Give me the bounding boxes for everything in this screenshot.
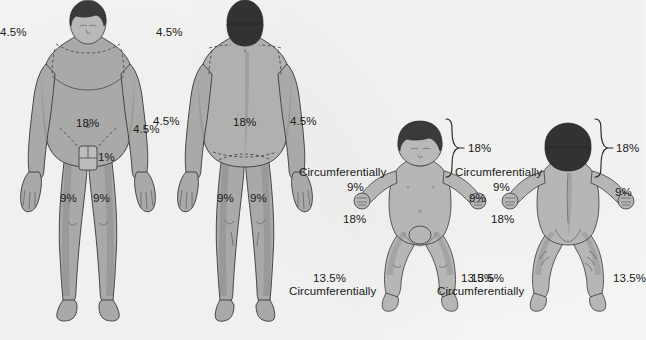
label-adult-ant-genitalia: 1%	[98, 152, 115, 164]
figure-adult-posterior: 4.5% 4.5% 4.5% 18% 9% 9%	[165, 4, 325, 324]
figure-adult-anterior: 4.5% 4.5% 4.5% 18% 1% 9% 9%	[8, 4, 168, 324]
label-infant-ant-arm-right: 9%	[469, 193, 486, 205]
label-infant-ant-leg-left: 13.5%	[313, 273, 346, 285]
label-adult-post-arm-right: 4.5%	[290, 116, 317, 128]
label-adult-post-leg-right: 9%	[250, 193, 267, 205]
label-adult-post-arm-left: 4.5%	[153, 116, 180, 128]
label-infant-post-arm-right: 9%	[615, 187, 632, 199]
label-infant-ant-arm-left: 9%	[347, 182, 364, 194]
label-adult-ant-head: 4.5%	[0, 27, 27, 39]
label-infant-ant-trunk: 18%	[343, 214, 366, 226]
label-adult-ant-leg-left: 9%	[60, 193, 77, 205]
label-infant-post-arm-left: 9%	[493, 182, 510, 194]
figure-infant-posterior: 18% Circumferentially 9% 9% 18% 13.5% Ci…	[503, 125, 633, 315]
label-infant-ant-leg-left-circumferentially: Circumferentially	[289, 286, 376, 298]
adult-posterior-body	[165, 4, 325, 324]
label-adult-ant-trunk: 18%	[76, 118, 99, 130]
label-infant-post-leg-left-circumferentially: Circumferentially	[437, 286, 524, 298]
label-infant-ant-head-brace: 18%	[468, 143, 491, 155]
label-adult-post-head: 4.5%	[156, 27, 183, 39]
label-infant-post-head-brace: 18%	[616, 143, 639, 155]
adult-anterior-body	[8, 4, 168, 324]
label-adult-post-leg-left: 9%	[217, 193, 234, 205]
label-infant-post-trunk: 18%	[491, 214, 514, 226]
label-infant-post-leg-left: 13.5%	[461, 273, 494, 285]
label-adult-ant-leg-right: 9%	[93, 193, 110, 205]
label-adult-post-trunk: 18%	[233, 117, 256, 129]
label-infant-post-leg-right: 13.5%	[613, 273, 646, 285]
label-infant-post-head-circumferentially: Circumferentially	[455, 167, 542, 179]
label-infant-ant-head-circumferentially: Circumferentially	[299, 167, 386, 179]
